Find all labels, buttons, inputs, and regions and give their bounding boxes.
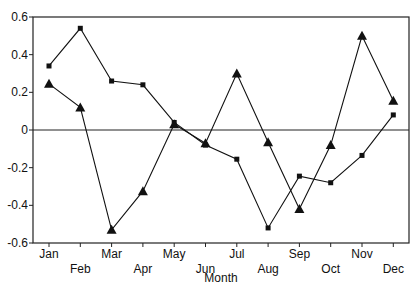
square-marker xyxy=(140,82,145,87)
y-axis: 0.60.40.20-0.2-0.4-0.6 xyxy=(7,10,33,250)
y-tick-label: 0.2 xyxy=(11,85,28,99)
x-axis-title: Month xyxy=(204,271,237,285)
x-tick-label: Sep xyxy=(289,247,311,261)
line-chart: 0.60.40.20-0.2-0.4-0.6 JanFebMarAprMayJu… xyxy=(0,0,418,305)
triangle-marker xyxy=(75,102,85,111)
x-tick-label: Dec xyxy=(383,262,404,276)
y-tick-label: 0 xyxy=(21,123,28,137)
triangle-marker xyxy=(138,186,148,195)
x-tick-label: May xyxy=(163,247,186,261)
x-tick-label: Oct xyxy=(321,262,340,276)
triangle-marker xyxy=(294,204,304,213)
triangle-marker xyxy=(232,69,242,78)
x-tick-label: Apr xyxy=(134,262,153,276)
y-tick-label: 0.4 xyxy=(11,48,28,62)
square-marker xyxy=(78,26,83,31)
series-square xyxy=(47,26,396,231)
x-tick-label: Mar xyxy=(101,247,122,261)
square-marker xyxy=(297,174,302,179)
triangle-marker xyxy=(388,96,398,105)
y-tick-label: 0.6 xyxy=(11,10,28,24)
square-marker xyxy=(328,180,333,185)
square-marker xyxy=(109,79,114,84)
y-tick-label: -0.2 xyxy=(7,161,28,175)
x-tick-label: Feb xyxy=(70,262,91,276)
triangle-marker xyxy=(263,137,273,146)
series-triangle xyxy=(44,31,398,234)
square-marker xyxy=(266,225,271,230)
triangle-marker xyxy=(326,140,336,149)
y-tick-label: -0.4 xyxy=(7,198,28,212)
square-marker xyxy=(391,112,396,117)
x-tick-label: Jan xyxy=(39,247,58,261)
x-tick-label: Nov xyxy=(351,247,372,261)
x-tick-label: Aug xyxy=(257,262,278,276)
y-tick-label: -0.6 xyxy=(7,236,28,250)
triangle-marker xyxy=(169,119,179,128)
triangle-marker xyxy=(44,79,54,88)
triangle-marker xyxy=(357,31,367,40)
x-tick-label: Jul xyxy=(229,247,244,261)
square-marker xyxy=(234,157,239,162)
square-marker xyxy=(360,153,365,158)
square-marker xyxy=(47,63,52,68)
